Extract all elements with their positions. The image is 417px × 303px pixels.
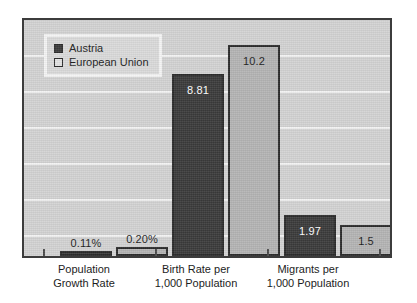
bar-austria-population-growth-rate[interactable]: 0.11% <box>60 251 112 256</box>
bar-value-label: 8.81 <box>174 85 222 96</box>
category-label-migrants: Migrants per 1,000 Population <box>233 262 383 290</box>
bar-eu-migrants[interactable]: 1.5 <box>340 225 392 256</box>
bar-eu-population-growth-rate[interactable]: 0.20% <box>116 247 168 256</box>
bar-austria-migrants[interactable]: 1.97 <box>284 215 336 256</box>
bar-eu-birth-rate[interactable]: 10.2 <box>228 45 280 256</box>
grouped-bar-chart: 0.11% 0.20% 8.81 10.2 1.97 1.5 <box>0 0 417 303</box>
legend-item-austria[interactable]: Austria <box>54 41 149 55</box>
bar-value-label: 0.20% <box>118 234 166 245</box>
axis-tick <box>155 249 157 256</box>
legend-swatch-icon <box>54 58 63 67</box>
legend-item-european-union[interactable]: European Union <box>54 55 149 69</box>
axis-tick <box>379 249 381 256</box>
category-label-line: Migrants per <box>233 262 383 276</box>
plot-area: 0.11% 0.20% 8.81 10.2 1.97 1.5 <box>22 18 392 258</box>
bar-value-label: 0.11% <box>62 238 110 249</box>
axis-tick <box>43 249 45 256</box>
bar-value-label: 1.97 <box>286 226 334 237</box>
axis-tick <box>267 249 269 256</box>
bar-value-label: 10.2 <box>230 56 278 67</box>
legend-swatch-icon <box>54 44 63 53</box>
legend-item-label: Austria <box>69 43 103 54</box>
legend: Austria European Union <box>44 34 162 77</box>
bar-value-label: 1.5 <box>342 236 390 247</box>
category-label-line: 1,000 Population <box>233 276 383 290</box>
category-axis-labels: Population Growth Rate Birth Rate per 1,… <box>22 262 392 298</box>
bar-austria-birth-rate[interactable]: 8.81 <box>172 74 224 256</box>
legend-item-label: European Union <box>69 57 149 68</box>
